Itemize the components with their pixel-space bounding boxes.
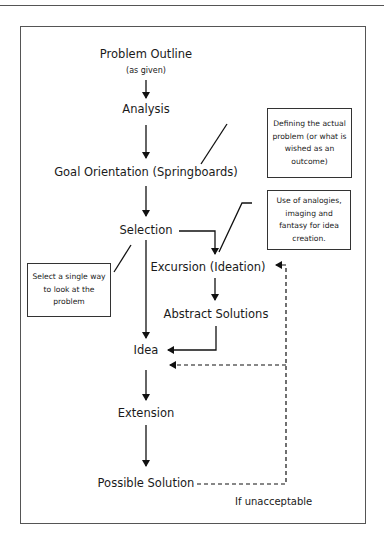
note-excursion-ideation: Use of analogies, imaging and fantasy fo… <box>267 190 351 250</box>
node-selection: Selection <box>120 223 173 237</box>
arrow-abstract-to-idea <box>168 326 216 350</box>
dashed-loop-to-excursion <box>197 265 286 484</box>
node-analysis: Analysis <box>122 102 169 116</box>
pointer-selection-note <box>114 245 131 272</box>
note-selection: Select a single way to look at the probl… <box>27 263 111 317</box>
pointer-goal-note <box>201 124 227 164</box>
pointer-excursion-note <box>219 203 252 252</box>
node-problem-outline-subtitle: (as given) <box>126 64 166 78</box>
loop-label: If unacceptable <box>235 496 312 507</box>
node-extension: Extension <box>118 406 174 420</box>
node-idea: Idea <box>134 343 159 357</box>
node-problem-outline: Problem Outline <box>100 47 192 61</box>
node-abstract-solutions: Abstract Solutions <box>164 307 269 321</box>
node-possible-solution: Possible Solution <box>98 476 195 490</box>
arrow-selection-to-excursion <box>179 231 215 254</box>
node-excursion: Excursion (Ideation) <box>150 260 265 274</box>
node-goal-orientation: Goal Orientation (Springboards) <box>54 165 238 179</box>
note-goal-definition: Defining the actual problem (or what is … <box>267 108 352 178</box>
